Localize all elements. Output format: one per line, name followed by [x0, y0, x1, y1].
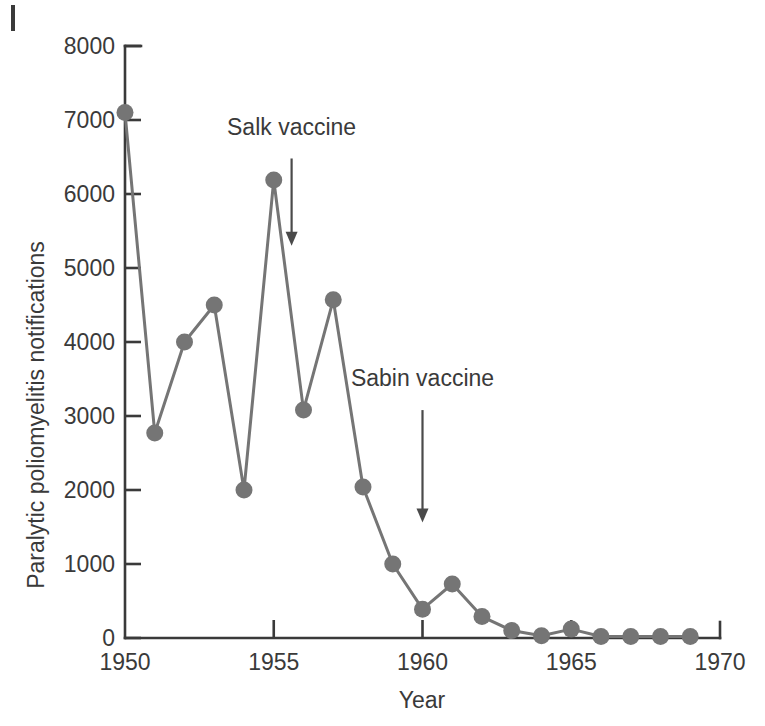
data-point-marker [265, 171, 282, 188]
figure-corner-rule [11, 5, 15, 31]
data-point-marker [444, 575, 461, 592]
data-point-marker [117, 104, 134, 121]
data-point-marker [593, 628, 610, 645]
x-tick-label: 1955 [248, 649, 299, 675]
x-axis-ticks [274, 620, 572, 638]
annotation-arrow-head [417, 509, 429, 523]
y-tick-label: 7000 [64, 107, 115, 133]
x-tick-label: 1970 [694, 649, 745, 675]
x-axis-tick-labels: 19501955196019651970 [99, 649, 745, 675]
y-tick-label: 5000 [64, 255, 115, 281]
data-point-marker [355, 479, 372, 496]
data-point-marker [503, 622, 520, 639]
chart-canvas: Paralytic poliomyelitis notifications Ye… [0, 0, 765, 726]
x-tick-label: 1960 [397, 649, 448, 675]
x-tick-label: 1950 [99, 649, 150, 675]
data-point-marker [682, 628, 699, 645]
annotation-arrow-head [286, 232, 298, 246]
data-point-marker [176, 334, 193, 351]
y-axis-title: Paralytic poliomyelitis notifications [23, 241, 49, 589]
x-tick-label: 1965 [546, 649, 597, 675]
annotation-label: Sabin vaccine [351, 365, 494, 391]
data-point-marker [325, 291, 342, 308]
data-point-marker [206, 297, 223, 314]
y-tick-label: 0 [102, 625, 115, 651]
y-tick-label: 3000 [64, 403, 115, 429]
data-point-marker [384, 556, 401, 573]
data-point-marker [236, 482, 253, 499]
poliomyelitis-line-chart-figure: Paralytic poliomyelitis notifications Ye… [0, 0, 765, 726]
data-point-marker [533, 627, 550, 644]
data-point-marker [622, 628, 639, 645]
y-axis-tick-labels: 010002000300040005000600070008000 [64, 33, 115, 651]
data-point-marker [652, 628, 669, 645]
x-axis-title: Year [399, 687, 446, 713]
data-point-marker [474, 608, 491, 625]
data-point-marker [146, 425, 163, 442]
y-tick-label: 4000 [64, 329, 115, 355]
data-point-marker [295, 402, 312, 419]
annotation-label: Salk vaccine [227, 114, 356, 140]
y-tick-label: 8000 [64, 33, 115, 59]
data-point-marker [414, 601, 431, 618]
y-tick-label: 6000 [64, 181, 115, 207]
y-tick-label: 1000 [64, 551, 115, 577]
data-point-marker [563, 621, 580, 638]
y-tick-label: 2000 [64, 477, 115, 503]
